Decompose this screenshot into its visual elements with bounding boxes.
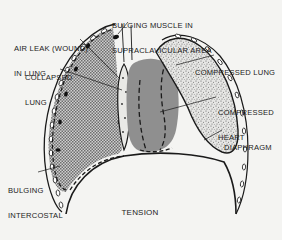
title-line1: TENSION — [105, 208, 175, 217]
diagram-title: TENSION PNEUMOTHORAX — [105, 190, 175, 218]
label-bulging-muscle-line1: BULGING MUSCLE IN — [112, 22, 212, 30]
label-bulging-intercostal: BULGING INTERCOSTAL MUSCLES — [8, 170, 63, 218]
label-bulging-intercostal-line1: BULGING — [8, 187, 63, 195]
label-collapsed-lung-line2: LUNG — [25, 99, 72, 107]
label-bulging-intercostal-line2: INTERCOSTAL — [8, 212, 63, 218]
label-air-leak-line1: AIR LEAK (WOUND) — [14, 45, 88, 53]
label-compressed-lung-line1: COMPRESSED LUNG — [195, 69, 275, 77]
label-compressed-lung: COMPRESSED LUNG — [195, 52, 275, 86]
label-collapsed-lung-line1: COLLAPSED — [25, 74, 72, 82]
label-diaphragm-line1: DIAPHRAGM — [224, 144, 272, 152]
label-diaphragm: DIAPHRAGM — [224, 127, 272, 161]
label-compressed-heart-line1: COMPRESSED — [218, 109, 274, 117]
label-collapsed-lung: COLLAPSED LUNG — [25, 57, 72, 116]
